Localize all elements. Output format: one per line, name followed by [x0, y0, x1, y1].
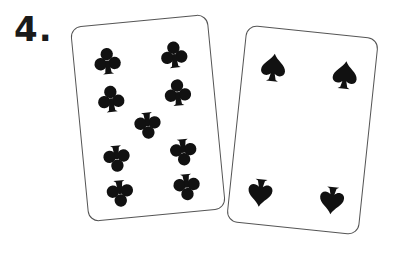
- playing-card-four-of-spades: [226, 25, 379, 236]
- spade-pip-icon: [247, 178, 274, 208]
- club-pip-icon: [163, 78, 192, 107]
- pips-container: [71, 15, 225, 221]
- pips-container: [227, 26, 378, 235]
- item-number-label: 4.: [14, 12, 53, 46]
- playing-card-eight-of-clubs: [70, 14, 226, 222]
- club-pip-icon: [172, 173, 201, 202]
- spade-pip-icon: [332, 60, 359, 90]
- club-pip-icon: [106, 179, 135, 208]
- club-pip-icon: [93, 47, 122, 76]
- club-pip-icon: [102, 144, 131, 173]
- spade-pip-icon: [318, 186, 345, 216]
- club-pip-icon: [97, 85, 126, 114]
- club-pip-icon: [133, 111, 162, 140]
- club-pip-icon: [160, 40, 189, 69]
- spade-pip-icon: [260, 52, 287, 82]
- club-pip-icon: [169, 138, 198, 167]
